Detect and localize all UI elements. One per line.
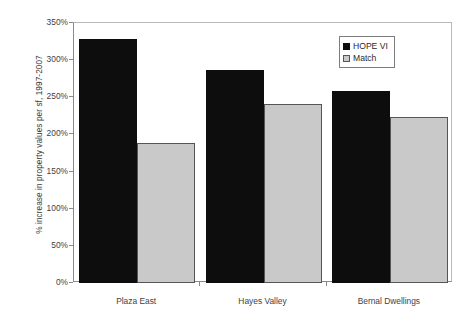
bar-match-hayes-valley (264, 104, 322, 283)
y-axis-tick-label: 100% (47, 203, 68, 213)
x-axis-tick-mark (326, 282, 327, 286)
bar-match-bernal-dwellings (390, 117, 448, 283)
legend-item: HOPE VI (343, 40, 388, 52)
legend-item-label: HOPE VI (353, 40, 388, 52)
y-axis-tick-label: 0% (56, 277, 68, 287)
y-axis-tick-mark (69, 282, 73, 283)
y-axis-tick-label: 300% (47, 54, 68, 64)
legend-item-label: Match (353, 52, 376, 64)
y-axis-tick-label: 50% (51, 240, 68, 250)
gray-square-icon (343, 55, 350, 62)
plot-area (73, 22, 452, 282)
y-axis-tick-label: 200% (47, 128, 68, 138)
chart-legend: HOPE VIMatch (339, 36, 395, 68)
y-axis-title: % increase in property values per sf, 19… (35, 20, 44, 270)
y-axis-tick-label: 150% (47, 166, 68, 176)
black-square-icon (343, 43, 350, 50)
x-axis-category-label: Plaza East (116, 296, 156, 306)
bar-chart: % increase in property values per sf, 19… (0, 0, 467, 330)
y-axis-tick-label: 350% (47, 17, 68, 27)
bar-match-plaza-east (137, 143, 195, 283)
bar-hope-vi-plaza-east (79, 39, 137, 283)
legend-item: Match (343, 52, 388, 64)
y-axis-tick-label: 250% (47, 91, 68, 101)
bar-hope-vi-bernal-dwellings (332, 91, 390, 283)
x-axis-category-label: Hayes Valley (238, 296, 286, 306)
x-axis-tick-mark (199, 282, 200, 286)
x-axis-category-label: Bernal Dwellings (358, 296, 420, 306)
bar-hope-vi-hayes-valley (206, 70, 264, 283)
